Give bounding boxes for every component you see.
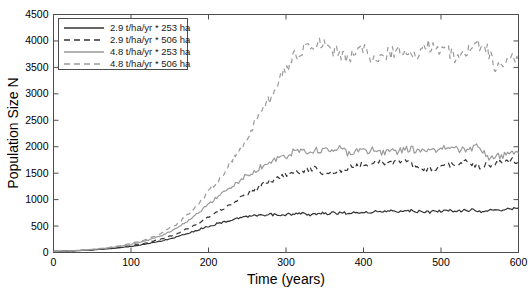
x-tick-label: 0 [51, 256, 57, 268]
y-tick-label: 4500 [25, 8, 49, 20]
y-tick-label: 4000 [25, 34, 49, 46]
x-tick-label: 500 [432, 256, 450, 268]
x-tick-label: 300 [277, 256, 295, 268]
legend-label-3: 4.8 t/ha/yr * 253 ha [110, 46, 191, 57]
chart-figure: 050010001500200025003000350040004500 010… [0, 0, 531, 288]
x-axis-label: Time (years) [247, 271, 325, 287]
x-tick-label: 100 [122, 256, 140, 268]
chart-legend: 2.9 t/ha/yr * 253 ha2.9 t/ha/yr * 506 ha… [59, 19, 191, 70]
x-tick-label: 400 [355, 256, 373, 268]
y-tick-label: 500 [31, 220, 49, 232]
population-line-chart: 050010001500200025003000350040004500 010… [0, 0, 531, 288]
y-tick-label: 1500 [25, 167, 49, 179]
y-tick-label: 3000 [25, 87, 49, 99]
y-tick-label: 1000 [25, 193, 49, 205]
y-tick-label: 3500 [25, 61, 49, 73]
y-tick-label: 0 [43, 246, 49, 258]
x-tick-label: 600 [510, 256, 528, 268]
y-tick-label: 2000 [25, 140, 49, 152]
y-tick-label: 2500 [25, 114, 49, 126]
y-axis-label: Population Size N [5, 77, 21, 188]
legend-label-1: 2.9 t/ha/yr * 253 ha [110, 22, 191, 33]
legend-label-2: 2.9 t/ha/yr * 506 ha [110, 34, 191, 45]
legend-label-4: 4.8 t/ha/yr * 506 ha [110, 58, 191, 69]
x-tick-label: 200 [200, 256, 218, 268]
